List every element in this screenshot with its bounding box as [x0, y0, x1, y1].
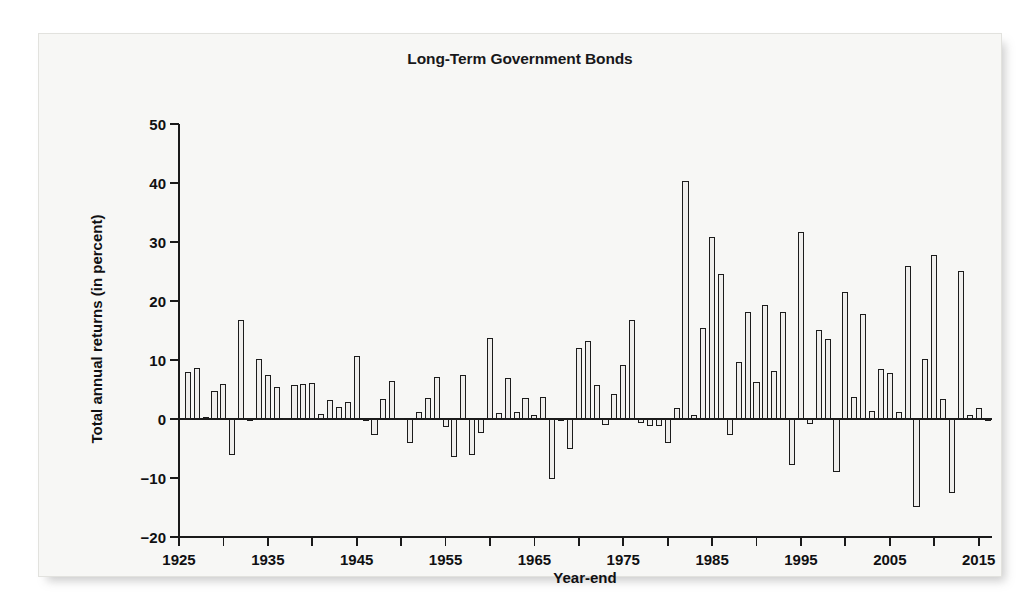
- bar: [922, 359, 928, 419]
- bar: [505, 378, 511, 419]
- bar: [869, 411, 875, 419]
- bar: [256, 359, 262, 419]
- bar: [425, 398, 431, 419]
- bar: [656, 419, 662, 426]
- x-tick-label: 1975: [607, 551, 640, 568]
- y-axis-line: [178, 124, 180, 537]
- bar: [203, 417, 209, 419]
- bar: [496, 413, 502, 419]
- y-tick-label: 50: [149, 116, 166, 133]
- x-tick-label: 1965: [518, 551, 551, 568]
- bar: [389, 381, 395, 419]
- y-tick: [170, 477, 179, 479]
- bar: [291, 385, 297, 419]
- x-tick: [933, 537, 935, 546]
- bar: [531, 415, 537, 419]
- bar: [443, 419, 449, 427]
- chart-title: Long-Term Government Bonds: [39, 50, 1001, 68]
- bar: [762, 305, 768, 419]
- y-tick-label: −20: [141, 529, 166, 546]
- bar: [469, 419, 475, 455]
- bar: [300, 384, 306, 419]
- bar: [771, 371, 777, 419]
- x-axis-line: [178, 536, 992, 538]
- bar: [691, 415, 697, 419]
- bar: [318, 414, 324, 419]
- bar: [487, 338, 493, 419]
- bar: [700, 328, 706, 419]
- x-tick-label: 2015: [962, 551, 995, 568]
- bar: [940, 399, 946, 419]
- bar: [709, 237, 715, 419]
- x-tick: [534, 537, 536, 546]
- y-tick-label: 30: [149, 234, 166, 251]
- y-tick: [170, 241, 179, 243]
- bar: [842, 292, 848, 419]
- bar: [247, 419, 253, 421]
- bar: [363, 419, 369, 421]
- bar: [611, 394, 617, 419]
- bar: [985, 419, 991, 421]
- bar: [549, 419, 555, 479]
- bar: [194, 368, 200, 419]
- y-tick: [170, 182, 179, 184]
- y-tick-label: 10: [149, 352, 166, 369]
- bar: [887, 373, 893, 419]
- y-tick-label: 40: [149, 175, 166, 192]
- bar: [638, 419, 644, 423]
- figure-root: Long-Term Government Bonds Total annual …: [0, 0, 1035, 609]
- bar: [594, 385, 600, 419]
- bar: [460, 375, 466, 419]
- x-tick: [223, 537, 225, 546]
- x-tick: [756, 537, 758, 546]
- bar: [807, 419, 813, 424]
- y-axis-title: Total annual returns (in percent): [88, 215, 105, 444]
- x-tick: [578, 537, 580, 546]
- x-tick-label: 1995: [784, 551, 817, 568]
- bar: [345, 402, 351, 419]
- bar: [833, 419, 839, 472]
- bar: [905, 266, 911, 419]
- bar: [274, 387, 280, 419]
- bar: [576, 348, 582, 419]
- bar: [629, 320, 635, 419]
- bar: [540, 397, 546, 419]
- x-tick: [667, 537, 669, 546]
- bar: [789, 419, 795, 465]
- x-tick: [844, 537, 846, 546]
- bar: [229, 419, 235, 455]
- bar: [753, 382, 759, 419]
- bar: [878, 369, 884, 419]
- y-tick-label: 20: [149, 293, 166, 310]
- bar: [265, 375, 271, 419]
- bar: [336, 407, 342, 419]
- x-tick: [800, 537, 802, 546]
- bar: [967, 415, 973, 419]
- bar: [736, 362, 742, 419]
- x-tick-label: 2005: [873, 551, 906, 568]
- y-tick: [170, 359, 179, 361]
- bar: [958, 271, 964, 419]
- bar: [522, 398, 528, 419]
- bar: [434, 377, 440, 419]
- bar: [220, 384, 226, 419]
- bar: [309, 383, 315, 419]
- bar: [478, 419, 484, 433]
- x-axis-title: Year-end: [553, 569, 616, 586]
- bar: [780, 312, 786, 419]
- bar: [380, 399, 386, 419]
- y-tick: [170, 300, 179, 302]
- bar: [860, 314, 866, 419]
- x-tick: [356, 537, 358, 546]
- bar: [913, 419, 919, 507]
- bar: [745, 312, 751, 419]
- bar: [514, 412, 520, 419]
- bar: [825, 339, 831, 419]
- bar: [896, 412, 902, 419]
- bar: [558, 419, 564, 421]
- x-tick-label: 1925: [162, 551, 195, 568]
- bar: [665, 419, 671, 443]
- bar: [851, 397, 857, 419]
- x-tick-label: 1985: [695, 551, 728, 568]
- x-tick-label: 1945: [340, 551, 373, 568]
